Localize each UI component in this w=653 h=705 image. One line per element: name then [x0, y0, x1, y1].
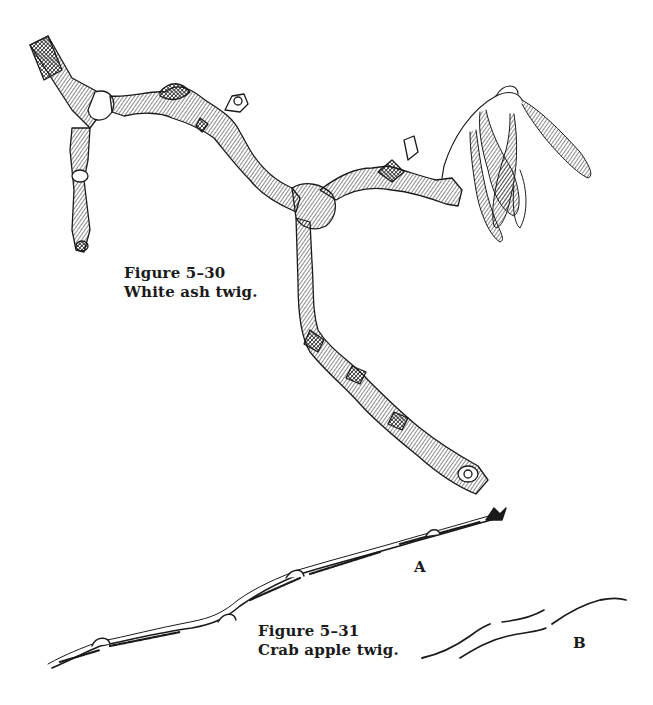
book-page: Figure 5–30 White ash twig. A B Figure 5…	[0, 0, 653, 705]
label-a: A	[414, 558, 426, 576]
crab-apple-twig-drawing	[0, 0, 653, 705]
figure-5-31-caption: Figure 5–31 Crab apple twig.	[258, 622, 399, 660]
label-b: B	[573, 634, 586, 652]
figure-number: Figure 5–31	[258, 622, 399, 641]
figure-title: Crab apple twig.	[258, 641, 399, 660]
